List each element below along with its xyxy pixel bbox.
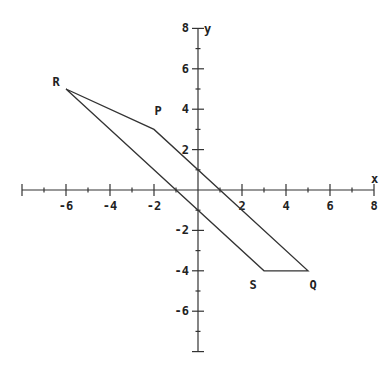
x-tick-label: -2 <box>147 199 161 213</box>
y-tick-label: 6 <box>182 62 189 76</box>
x-tick-label: -6 <box>59 199 73 213</box>
y-tick-label: 2 <box>182 143 189 157</box>
y-tick-label: -4 <box>175 264 189 278</box>
x-tick-label: 4 <box>282 199 289 213</box>
chart-canvas: -6-4-224688642-2-4-6 RPQS x y <box>0 0 386 385</box>
vertex-label-p: P <box>154 104 161 118</box>
x-axis-label: x <box>371 172 378 186</box>
axis-tick-labels: -6-4-224688642-2-4-6 <box>59 21 378 318</box>
vertex-label-q: Q <box>309 278 316 292</box>
y-axis-label: y <box>204 22 211 36</box>
vertex-label-r: R <box>52 75 60 89</box>
quadrilateral-rpqs <box>66 89 308 271</box>
vertex-label-s: S <box>249 278 256 292</box>
coordinate-plane-chart: -6-4-224688642-2-4-6 RPQS x y <box>0 0 386 385</box>
y-tick-label: -6 <box>175 304 189 318</box>
x-tick-label: 6 <box>326 199 333 213</box>
x-tick-label: 8 <box>370 199 377 213</box>
axes <box>22 28 374 351</box>
x-tick-label: -4 <box>103 199 117 213</box>
y-tick-label: 4 <box>182 102 189 116</box>
y-tick-label: -2 <box>175 223 189 237</box>
y-tick-label: 8 <box>182 21 189 35</box>
